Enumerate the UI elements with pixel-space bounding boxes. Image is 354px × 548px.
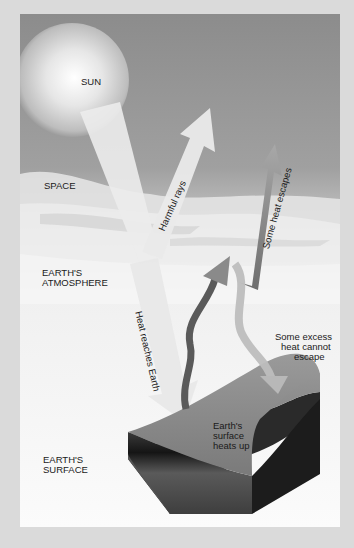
sun-label: SUN [81,77,101,88]
surface-label-line2: SURFACE [43,465,88,476]
surface-heats-line3: heats up [213,441,249,452]
atmosphere-label-line2: ATMOSPHERE [42,278,108,289]
diagram-panel: SUN SPACE EARTH'S ATMOSPHERE EARTH'S SUR… [20,14,340,527]
excess-heat-line3: escape [294,352,325,363]
space-label: SPACE [44,181,76,192]
